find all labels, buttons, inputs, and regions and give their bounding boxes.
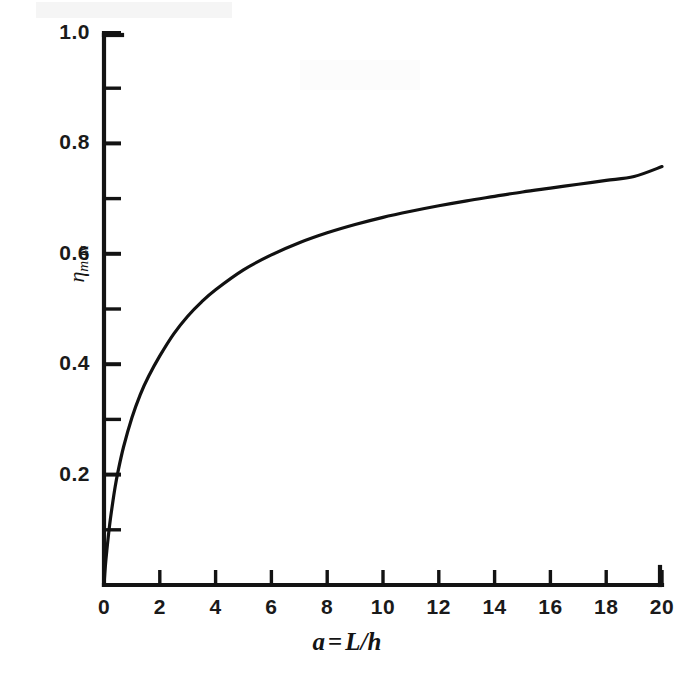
y-axis-label-symbol: η xyxy=(64,272,89,283)
x-tick-label: 0 xyxy=(82,595,126,619)
y-axis-label-subscript: max xyxy=(75,245,91,272)
x-tick-label: 4 xyxy=(194,595,238,619)
x-tick-label: 6 xyxy=(249,595,293,619)
x-axis-label: a=L/h xyxy=(0,628,694,656)
x-axis-label-operator: = xyxy=(325,628,345,655)
x-tick-label: 2 xyxy=(138,595,182,619)
x-tick-label: 12 xyxy=(417,595,461,619)
y-tick-label: 0.8 xyxy=(32,130,90,154)
data-series-line xyxy=(104,167,662,585)
x-tick-label: 18 xyxy=(584,595,628,619)
x-axis-label-rhs: L/h xyxy=(345,628,381,655)
y-axis-ticks xyxy=(104,33,121,530)
plot-axes xyxy=(104,33,662,585)
x-tick-label: 16 xyxy=(528,595,572,619)
chart-figure xyxy=(0,0,694,676)
y-axis-label: ηmax xyxy=(64,204,92,324)
x-axis-ticks xyxy=(160,570,662,585)
x-axis-label-lhs: a xyxy=(313,628,326,655)
x-tick-label: 8 xyxy=(305,595,349,619)
x-tick-label: 20 xyxy=(640,595,684,619)
y-tick-label: 1.0 xyxy=(32,20,90,44)
y-tick-label: 0.2 xyxy=(32,462,90,486)
x-tick-label: 10 xyxy=(361,595,405,619)
y-tick-label: 0.4 xyxy=(32,351,90,375)
x-tick-label: 14 xyxy=(473,595,517,619)
